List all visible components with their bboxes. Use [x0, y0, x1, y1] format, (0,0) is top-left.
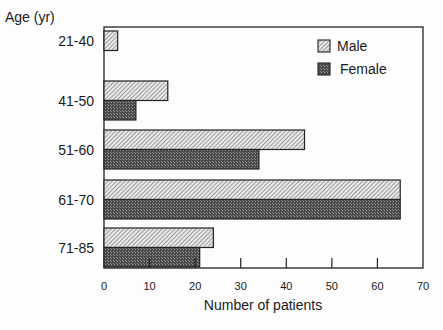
bar-female-71-85	[104, 248, 200, 268]
x-tick-label: 30	[235, 280, 247, 292]
category-label: 21-40	[58, 33, 94, 49]
legend: MaleFemale	[318, 38, 387, 77]
x-tick-label: 70	[417, 280, 429, 292]
bar-male-71-85	[104, 228, 213, 248]
x-axis-title: Number of patients	[204, 297, 322, 313]
bar-female-41-50	[104, 101, 136, 121]
x-tick-label: 10	[143, 280, 155, 292]
bar-male-51-60	[104, 130, 305, 150]
legend-label-female: Female	[340, 61, 387, 77]
bar-female-61-70	[104, 200, 400, 220]
x-tick-label: 60	[371, 280, 383, 292]
x-tick-label: 40	[280, 280, 292, 292]
category-label: 41-50	[58, 93, 94, 109]
category-label: 51-60	[58, 142, 94, 158]
legend-swatch-male	[318, 40, 330, 52]
y-axis-title: Age (yr)	[5, 9, 55, 25]
legend-swatch-female	[318, 63, 330, 75]
bar-female-51-60	[104, 150, 259, 170]
x-tick-label: 50	[326, 280, 338, 292]
category-label: 61-70	[58, 192, 94, 208]
bar-male-41-50	[104, 81, 168, 101]
category-label: 71-85	[58, 240, 94, 256]
x-tick-label: 0	[101, 280, 107, 292]
patients-by-age-bar-chart: Age (yr) 21-4041-5051-6061-7071-85010203…	[0, 0, 443, 330]
bar-male-21-40	[104, 31, 118, 51]
bar-male-61-70	[104, 180, 400, 200]
x-tick-label: 20	[189, 280, 201, 292]
legend-label-male: Male	[337, 38, 368, 54]
